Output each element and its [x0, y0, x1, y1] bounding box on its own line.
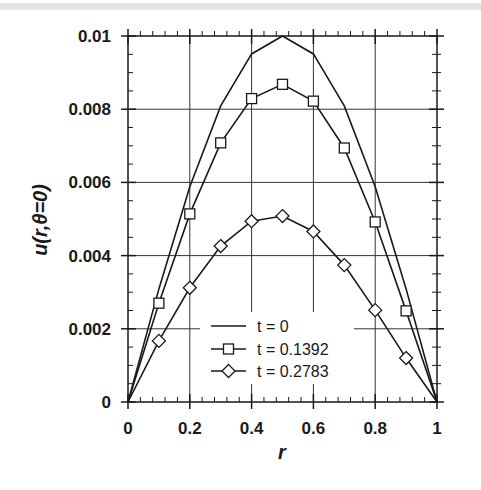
legend-label: t = 0.1392 [257, 341, 329, 358]
square-marker-icon [224, 344, 234, 354]
square-marker-icon [185, 209, 195, 219]
diamond-marker-icon [152, 334, 165, 347]
y-tick-label: 0.004 [68, 247, 111, 266]
chart: t = 0t = 0.1392t = 0.2783 00.20.40.60.81… [0, 0, 481, 490]
legend: t = 0t = 0.1392t = 0.2783 [200, 312, 354, 384]
x-tick-label: 0.4 [240, 419, 264, 438]
y-axis-title: u(r,θ=0) [29, 184, 51, 256]
legend-label: t = 0 [257, 318, 289, 335]
diamond-marker-icon [276, 210, 289, 223]
x-axis-title: r [278, 441, 287, 463]
square-marker-icon [308, 96, 318, 106]
x-tick-label: 1 [432, 419, 441, 438]
square-marker-icon [216, 138, 226, 148]
diamond-marker-icon [369, 304, 382, 317]
y-tick-label: 0.008 [68, 100, 111, 119]
legend-label: t = 0.2783 [257, 363, 329, 380]
square-marker-icon [370, 217, 380, 227]
square-marker-icon [247, 94, 257, 104]
diamond-marker-icon [183, 281, 196, 294]
y-tick-label: 0.006 [68, 173, 111, 192]
square-marker-icon [278, 79, 288, 89]
x-tick-label: 0.6 [302, 419, 326, 438]
square-marker-icon [401, 306, 411, 316]
square-marker-icon [154, 298, 164, 308]
square-marker-icon [339, 143, 349, 153]
x-tick-label: 0 [123, 419, 132, 438]
y-tick-label: 0.002 [68, 320, 111, 339]
legend-item: t = 0.2783 [211, 363, 329, 380]
y-tick-label: 0.01 [78, 27, 111, 46]
x-tick-label: 0.2 [178, 419, 202, 438]
x-tick-label: 0.8 [363, 419, 387, 438]
diamond-marker-icon [400, 352, 413, 365]
y-tick-label: 0 [102, 393, 111, 412]
